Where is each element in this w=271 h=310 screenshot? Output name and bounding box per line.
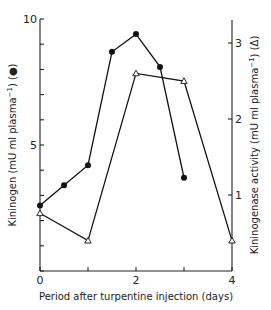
kininogen-point (157, 64, 163, 70)
kininogenase-point (229, 237, 235, 243)
chart: 510024123 Period after turpentine inject… (0, 0, 271, 310)
x-tick-label: 4 (229, 274, 236, 287)
kininogen-point (109, 49, 115, 55)
kininogen-point (85, 162, 91, 168)
y-tick-label: 5 (30, 139, 37, 152)
kininogen-point (133, 31, 139, 37)
tick-labels: 510024123 (23, 13, 242, 287)
kininogenase-point (133, 70, 139, 76)
kininogen-line (40, 34, 184, 205)
y2-axis-label: Kininogenase activity (mU ml plasma−1) (… (248, 36, 260, 255)
y2-tick-label: 2 (235, 113, 242, 126)
y2-tick-label: 3 (235, 37, 242, 50)
kininogenase-point (85, 237, 91, 243)
x-axis-label: Period after turpentine injection (days) (39, 291, 233, 302)
kininogen-point (181, 175, 187, 181)
y-tick-label: 10 (23, 13, 37, 26)
kininogen-point (37, 202, 43, 208)
kininogenase-line (40, 73, 232, 240)
x-tick-label: 2 (133, 274, 140, 287)
kininogenase-point (37, 210, 43, 216)
y-axis-label: Kininogen (mU ml plasma−1) (●) (6, 63, 18, 226)
series (37, 31, 235, 243)
kininogen-point (61, 182, 67, 188)
y2-tick-label: 1 (235, 189, 242, 202)
x-tick-label: 0 (37, 274, 44, 287)
